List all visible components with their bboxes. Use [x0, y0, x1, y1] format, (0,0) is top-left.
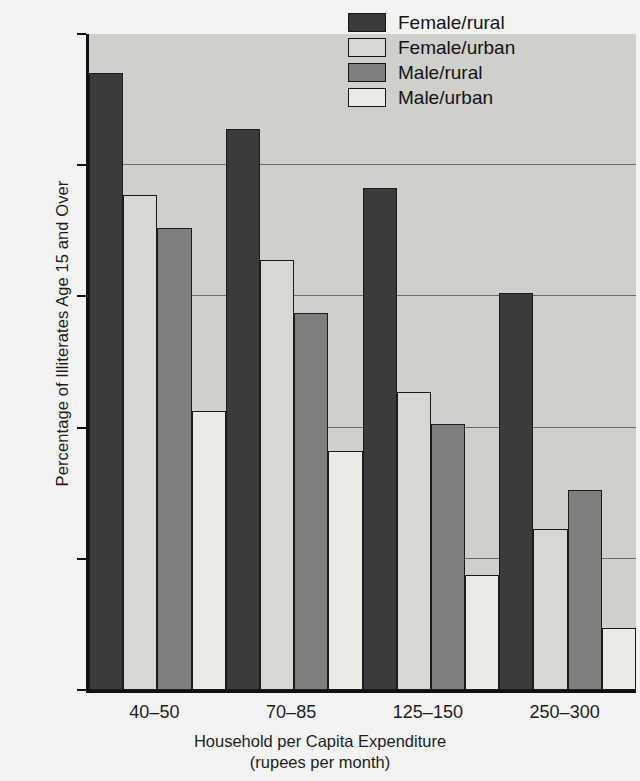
bar-female-urban-40-50 — [123, 195, 157, 690]
chart-legend: Female/ruralFemale/urbanMale/ruralMale/u… — [348, 10, 515, 110]
legend-item-male-urban: Male/urban — [348, 85, 515, 110]
bar-female-rural-125-150 — [363, 188, 397, 690]
legend-label: Male/rural — [398, 62, 482, 84]
bar-female-urban-70-85 — [260, 260, 294, 690]
bar-female-rural-250-300 — [499, 293, 533, 690]
legend-label: Female/urban — [398, 37, 515, 59]
bar-male-rural-40-50 — [157, 228, 191, 690]
plot-area — [86, 34, 636, 693]
bar-male-urban-125-150 — [465, 575, 499, 690]
x-axis-tick-label: 125–150 — [393, 702, 463, 723]
bar-female-rural-70-85 — [226, 129, 260, 690]
chart-figure: Percentage of Illiterates Age 15 and Ove… — [0, 0, 640, 781]
bar-male-rural-70-85 — [294, 313, 328, 690]
bar-male-urban-250-300 — [602, 628, 636, 690]
y-axis-title: Percentage of Illiterates Age 15 and Ove… — [53, 24, 72, 644]
bar-male-rural-125-150 — [431, 424, 465, 690]
bar-male-rural-250-300 — [568, 490, 602, 690]
bar-female-rural-40-50 — [89, 73, 123, 690]
y-axis-tick-mark — [77, 427, 86, 429]
bar-female-urban-250-300 — [533, 529, 567, 690]
y-axis-tick-mark — [77, 33, 86, 35]
x-axis-title: Household per Capita Expenditure (rupees… — [0, 731, 640, 773]
plot-inner — [89, 34, 636, 690]
legend-swatch-icon — [348, 13, 386, 32]
y-axis-tick-mark — [77, 689, 86, 691]
x-axis-tick-label: 70–85 — [266, 702, 316, 723]
x-axis-tick-label: 250–300 — [530, 702, 600, 723]
bar-female-urban-125-150 — [397, 392, 431, 690]
legend-swatch-icon — [348, 88, 386, 107]
y-axis-tick-mark — [77, 164, 86, 166]
x-axis-title-sub: (rupees per month) — [0, 752, 640, 773]
legend-swatch-icon — [348, 63, 386, 82]
x-axis-title-main: Household per Capita Expenditure — [0, 731, 640, 752]
x-axis-tick-label: 40–50 — [129, 702, 179, 723]
y-axis-tick-mark — [77, 295, 86, 297]
bar-male-urban-70-85 — [328, 451, 362, 690]
legend-swatch-icon — [348, 38, 386, 57]
legend-item-male-rural: Male/rural — [348, 60, 515, 85]
y-axis-tick-mark — [77, 558, 86, 560]
legend-item-female-rural: Female/rural — [348, 10, 515, 35]
bar-male-urban-40-50 — [192, 411, 226, 690]
legend-item-female-urban: Female/urban — [348, 35, 515, 60]
legend-label: Female/rural — [398, 12, 505, 34]
gridline — [89, 164, 636, 165]
legend-label: Male/urban — [398, 87, 493, 109]
